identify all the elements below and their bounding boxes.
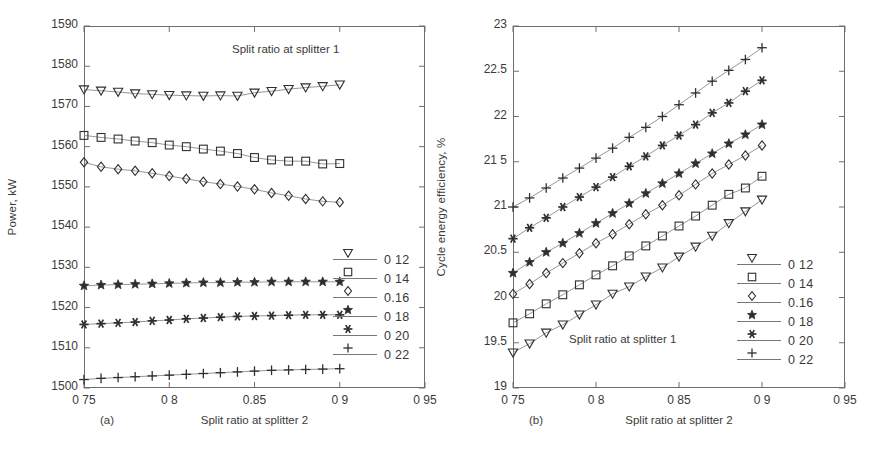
legend-a: 0 120 140.160 180 200 22 (333, 250, 410, 364)
legend-marker-star (341, 303, 355, 317)
legend-marker-plus (341, 341, 355, 355)
data-point (691, 159, 700, 168)
data-point (591, 183, 600, 191)
y-tick-label: 1550 (26, 178, 78, 192)
data-point (541, 247, 550, 256)
legend-marker-triangle-down (341, 246, 355, 260)
data-point (757, 43, 767, 53)
data-point (757, 76, 766, 84)
data-point (113, 373, 123, 383)
annotation-a: Split ratio at splitter 1 (232, 43, 339, 55)
data-point (658, 179, 667, 188)
data-point (96, 374, 106, 384)
data-point (508, 235, 517, 243)
data-point (301, 277, 310, 286)
x-tick-label: 0 75 (485, 393, 541, 407)
data-point (182, 315, 191, 323)
data-point (165, 316, 174, 324)
legend-label: 0 18 (788, 315, 814, 329)
legend-marker-asterisk (341, 322, 355, 336)
legend-line-sample (333, 331, 377, 341)
legend-item[interactable]: 0 22 (333, 345, 410, 364)
data-point (79, 320, 88, 328)
data-point (284, 365, 294, 375)
data-point (724, 66, 734, 76)
legend-item[interactable]: 0 22 (737, 350, 814, 369)
data-point (558, 173, 568, 183)
x-tick-label: 0 95 (397, 393, 453, 407)
data-point (707, 76, 717, 86)
legend-line-sample (333, 312, 377, 322)
x-tick-label: 0 9 (734, 393, 790, 407)
data-point (113, 280, 122, 289)
x-tick-label: 0 9 (312, 393, 368, 407)
data-point (318, 364, 328, 374)
y-tick-label: 1570 (26, 97, 78, 111)
legend-label: 0 14 (788, 277, 814, 291)
data-point (624, 198, 633, 207)
data-point (216, 278, 225, 287)
data-point (674, 100, 684, 110)
panel-b: Cycle energy efficiency, % Split ratio a… (447, 0, 893, 451)
legend-line-sample (737, 355, 781, 365)
legend-label: 0 22 (788, 353, 814, 367)
legend-marker-star (745, 308, 759, 322)
data-point (624, 132, 634, 142)
y-tick-label: 22 (455, 108, 507, 122)
legend-line-sample (333, 293, 377, 303)
legend-marker-asterisk (745, 327, 759, 341)
x-tick-label: 0 8 (141, 393, 197, 407)
data-point (96, 320, 105, 328)
data-point (674, 132, 683, 140)
y-tick-label: 21 5 (455, 153, 507, 167)
data-point (199, 369, 209, 379)
data-point (147, 371, 157, 381)
series-line (513, 80, 762, 238)
legend-label: 0 12 (788, 258, 814, 272)
data-point (284, 311, 293, 319)
data-point (301, 311, 310, 319)
data-point (641, 152, 650, 160)
data-point (757, 120, 766, 129)
x-tick-label: 0 8 (568, 393, 624, 407)
data-point (335, 364, 345, 374)
data-point (216, 368, 226, 378)
legend-line-sample (737, 279, 781, 289)
legend-marker-square (341, 265, 355, 279)
series-line (84, 85, 340, 96)
data-point (508, 349, 517, 357)
data-point (130, 279, 139, 288)
data-point (625, 162, 634, 170)
x-tick-label: 0 95 (817, 393, 873, 407)
y-tick-label: 20 (455, 289, 507, 303)
data-point (182, 278, 191, 287)
panel-a: Power, kW Split ratio at splitter 2 Spli… (0, 0, 447, 451)
y-tick-label: 1500 (26, 379, 78, 393)
data-point (318, 311, 327, 319)
data-point (216, 313, 225, 321)
data-point (658, 112, 668, 122)
data-point (96, 280, 105, 289)
legend-label: 0 20 (384, 329, 410, 343)
data-point (674, 169, 683, 178)
y-tick-label: 1540 (26, 218, 78, 232)
data-point (575, 193, 584, 201)
data-point (301, 365, 311, 375)
data-point (284, 277, 293, 286)
data-point (608, 143, 618, 153)
data-point (691, 88, 701, 98)
panel-id-b: (b) (529, 414, 543, 426)
legend-marker-diamond (341, 284, 355, 298)
data-point (233, 277, 242, 286)
data-point (741, 55, 751, 65)
legend-label: 0.16 (788, 296, 814, 310)
annotation-b: Split ratio at splitter 1 (569, 333, 676, 345)
legend-label: 0 18 (384, 310, 410, 324)
legend-line-sample (737, 260, 781, 270)
legend-line-sample (737, 317, 781, 327)
series-line (513, 48, 762, 207)
data-point (641, 123, 651, 133)
legend-line-sample (333, 255, 377, 265)
x-tick-label: 0 75 (56, 393, 112, 407)
data-point (542, 214, 551, 222)
